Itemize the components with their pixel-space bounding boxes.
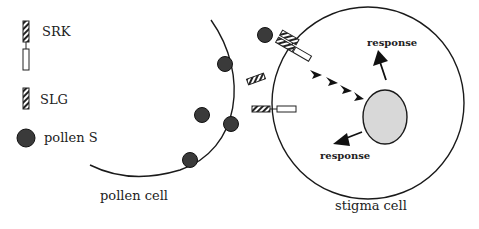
signal-arrows (310, 70, 364, 101)
pollen-cell-label: pollen cell (100, 188, 168, 203)
pollen-s-particles (183, 28, 273, 168)
pollen-s-icon (17, 129, 35, 147)
legend-label-slg: SLG (40, 92, 68, 107)
diagram-graphics (0, 0, 479, 229)
response-arrow-up (373, 50, 388, 80)
response-arrow-down (333, 132, 362, 146)
legend-label-pollen-s: pollen S (44, 130, 98, 145)
nucleus (363, 90, 407, 144)
response-label-bottom: response (320, 150, 370, 161)
pollen-cell-membrane (90, 20, 234, 176)
free-slg (247, 73, 266, 85)
response-label-top: response (367, 37, 417, 48)
srk-slg-complex (276, 30, 316, 61)
stigma-cell-label: stigma cell (335, 198, 407, 213)
legend-label-srk: SRK (42, 24, 70, 39)
unbound-srk (252, 106, 296, 112)
slg-glycoprotein-icon (23, 88, 29, 109)
diagram-canvas: SRK SLG pollen S response response polle… (0, 0, 479, 229)
srk-receptor-icon (23, 21, 29, 70)
